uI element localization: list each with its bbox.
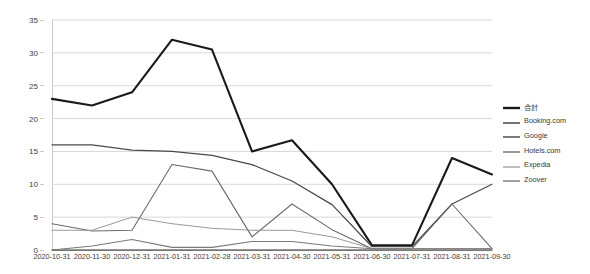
y-axis-tick-label: 20 <box>29 114 38 123</box>
y-axis-tick-label: 10 <box>29 180 38 189</box>
y-axis: 05101520253035 <box>0 20 44 250</box>
x-axis-tick-label: 2021-03-31 <box>234 252 271 261</box>
legend-item-label: Hotels.com <box>524 146 560 155</box>
legend-item-label: Google <box>524 131 548 140</box>
x-axis-tick-label: 2021-09-30 <box>474 252 511 261</box>
legend-item[interactable]: Zoover <box>503 172 589 187</box>
y-axis-tick-mark <box>40 151 44 152</box>
x-axis-tick-label: 2021-08-31 <box>434 252 471 261</box>
y-axis-tick-mark <box>40 250 44 251</box>
legend-item-label: 合計 <box>524 101 538 112</box>
series-line-1 <box>52 145 492 247</box>
legend-item-label: Expedia <box>524 160 550 169</box>
series-line-5 <box>52 239 492 250</box>
y-axis-tick-mark <box>40 217 44 218</box>
x-axis-tick-label: 2021-07-31 <box>394 252 431 261</box>
legend-swatch-icon <box>503 170 520 188</box>
x-axis-tick-label: 2021-01-31 <box>154 252 191 261</box>
y-axis-tick-label: 30 <box>29 48 38 57</box>
x-axis-tick-label: 2021-06-30 <box>354 252 391 261</box>
y-axis-tick-label: 15 <box>29 147 38 156</box>
y-axis-tick-label: 35 <box>29 16 38 25</box>
chart-legend: 合計Booking.comGoogleHotels.comExpediaZoov… <box>503 99 589 187</box>
x-axis-tick-label: 2020-10-31 <box>34 252 71 261</box>
y-axis-tick-mark <box>40 118 44 119</box>
legend-item-label: Zoover <box>524 175 547 184</box>
x-axis-tick-label: 2021-02-28 <box>194 252 231 261</box>
series-line-0 <box>52 40 492 246</box>
series-lines <box>52 20 492 250</box>
series-line-3 <box>52 165 492 249</box>
x-axis-tick-label: 2021-04-30 <box>274 252 311 261</box>
line-chart: 05101520253035 2020-10-312020-11-302020-… <box>0 0 590 274</box>
y-axis-tick-mark <box>40 20 44 21</box>
y-axis-tick-mark <box>40 85 44 86</box>
y-axis-tick-mark <box>40 52 44 53</box>
y-axis-tick-mark <box>40 184 44 185</box>
x-axis-tick-label: 2020-11-30 <box>74 252 110 261</box>
y-axis-tick-label: 25 <box>29 81 38 90</box>
x-axis-tick-label: 2021-05-31 <box>314 252 351 261</box>
legend-item-label: Booking.com <box>524 116 566 125</box>
plot-area <box>52 20 492 250</box>
x-axis-tick-label: 2020-12-31 <box>114 252 151 261</box>
y-axis-tick-label: 5 <box>33 213 38 222</box>
x-axis: 2020-10-312020-11-302020-12-312021-01-31… <box>52 252 492 272</box>
